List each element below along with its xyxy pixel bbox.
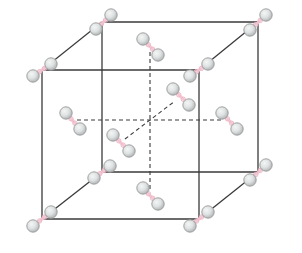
atom-sphere-icon [27, 70, 39, 82]
atom-sphere-icon [45, 206, 57, 218]
atom-sphere-icon [184, 70, 196, 82]
atom-sphere-icon [202, 206, 214, 218]
atom-sphere-icon [152, 198, 164, 210]
atom-sphere-icon [107, 129, 119, 141]
atom-sphere-icon [104, 160, 116, 172]
atom-sphere-icon [88, 172, 100, 184]
atom-sphere-icon [123, 145, 135, 157]
atom-sphere-icon [137, 182, 149, 194]
dashed-axes-group [77, 52, 223, 192]
atom-sphere-icon [105, 9, 117, 21]
atom-sphere-icon [45, 58, 57, 70]
atom-sphere-icon [260, 9, 272, 21]
atom-sphere-icon [260, 159, 272, 171]
molecule-face-center-front [107, 129, 135, 157]
molecule-face-center-top [137, 33, 164, 61]
atom-sphere-icon [152, 49, 164, 61]
atom-sphere-icon [231, 123, 243, 135]
atom-sphere-icon [137, 33, 149, 45]
molecule-face-center-right [216, 107, 243, 135]
atom-sphere-icon [183, 99, 195, 111]
molecule-face-center-back [167, 83, 195, 111]
atom-sphere-icon [167, 83, 179, 95]
atom-sphere-icon [60, 107, 72, 119]
atom-sphere-icon [90, 23, 102, 35]
atom-sphere-icon [244, 24, 256, 36]
atom-sphere-icon [202, 58, 214, 70]
depth-axis [125, 101, 175, 139]
atom-sphere-icon [184, 220, 196, 232]
atom-sphere-icon [27, 220, 39, 232]
fcc-lattice-diagram [0, 0, 302, 253]
atom-sphere-icon [216, 107, 228, 119]
atom-sphere-icon [244, 174, 256, 186]
molecule-face-center-left [60, 107, 86, 135]
atom-sphere-icon [74, 123, 86, 135]
